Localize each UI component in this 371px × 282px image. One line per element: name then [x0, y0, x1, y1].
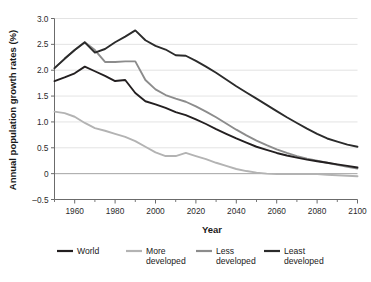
legend-label-line2: developed: [146, 256, 186, 266]
y-tick-label: 1.0: [37, 117, 49, 127]
x-tick-label: 2020: [187, 206, 206, 216]
legend-label-line2: developed: [284, 256, 324, 266]
x-tick-label: 2060: [267, 206, 286, 216]
x-tick-label: 2080: [308, 206, 327, 216]
y-tick-label: 1.5: [37, 91, 49, 101]
x-axis-title: Year: [202, 224, 222, 235]
x-tick-label: 1980: [106, 206, 125, 216]
chart-figure: 3.02.52.01.51.00.50–0.5 1960198020002020…: [0, 0, 371, 282]
x-tick-label: 1960: [65, 206, 84, 216]
legend-label: World: [77, 246, 100, 256]
y-tick-label: 2.5: [37, 39, 49, 49]
y-tick-label: 0.5: [37, 143, 49, 153]
x-tick-label: 2040: [227, 206, 246, 216]
legend-label-line2: developed: [216, 256, 256, 266]
y-tick-label: 3.0: [37, 14, 49, 24]
y-axis-title: Annual population growth rates (%): [7, 30, 18, 190]
legend-label: More: [146, 246, 166, 256]
y-tick-label: 2.0: [37, 65, 49, 75]
population-growth-line-chart: 3.02.52.01.51.00.50–0.5 1960198020002020…: [0, 0, 371, 282]
legend-label: Least: [284, 246, 306, 256]
y-tick-label: –0.5: [32, 195, 49, 205]
y-tick-label: 0: [44, 169, 49, 179]
legend-label: Less: [216, 246, 234, 256]
x-tick-label: 2000: [146, 206, 165, 216]
x-tick-label: 2100: [348, 206, 367, 216]
chart-background: [0, 0, 371, 282]
